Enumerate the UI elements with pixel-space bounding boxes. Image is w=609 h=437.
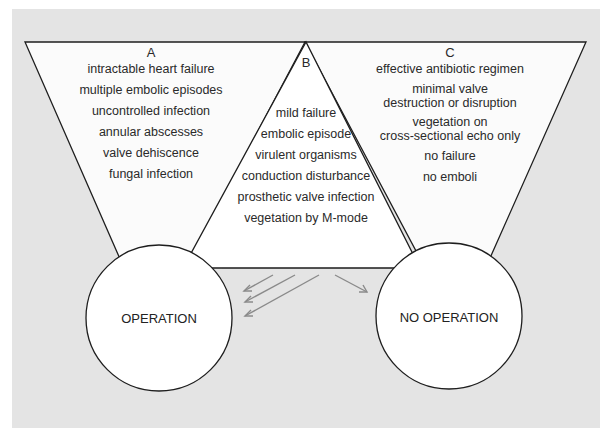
panel-b-heading: B (286, 55, 326, 70)
panel-a-item: fungal infection (56, 167, 246, 182)
no-operation-label: NO OPERATION (384, 310, 514, 325)
panel-c-text: C effective antibiotic regimen minimal v… (360, 45, 540, 191)
panel-a-item: uncontrolled infection (56, 104, 246, 119)
panel-c-item: no emboli (360, 170, 540, 185)
panel-b-heading-wrap: B (286, 55, 326, 72)
operation-label: OPERATION (99, 311, 219, 326)
panel-a-heading: A (56, 45, 246, 60)
panel-c-item: effective antibiotic regimen (360, 62, 540, 77)
panel-c-item: vegetation on cross-sectional echo only (360, 116, 540, 143)
panel-a-text: A intractable heart failure multiple emb… (56, 45, 246, 188)
arrows-to-operation (244, 275, 319, 316)
panel-a-item: annular abscesses (56, 125, 246, 140)
panel-b-item: prosthetic valve infection (220, 190, 392, 205)
panel-c-item: minimal valve destruction or disruption (360, 83, 540, 110)
panel-a-item: multiple embolic episodes (56, 83, 246, 98)
panel-a-item: intractable heart failure (56, 62, 246, 77)
panel-c-heading: C (360, 45, 540, 60)
arrow-to-no-operation (335, 275, 367, 292)
panel-a-item: valve dehiscence (56, 146, 246, 161)
panel-c-item: no failure (360, 149, 540, 164)
panel-b-item: vegetation by M-mode (220, 211, 392, 226)
